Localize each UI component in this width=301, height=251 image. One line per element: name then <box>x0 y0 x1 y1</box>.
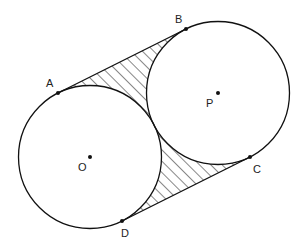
point-a <box>56 91 60 95</box>
label-a: A <box>46 77 54 89</box>
label-p: P <box>206 97 213 109</box>
label-o: O <box>78 161 87 173</box>
tangent-circles-diagram: A B C D O P <box>0 0 301 251</box>
label-c: C <box>253 163 261 175</box>
center-p <box>216 91 220 95</box>
point-b <box>184 27 188 31</box>
point-c <box>248 155 252 159</box>
point-d <box>120 219 124 223</box>
label-d: D <box>121 227 129 239</box>
center-o <box>88 155 92 159</box>
label-b: B <box>175 13 182 25</box>
